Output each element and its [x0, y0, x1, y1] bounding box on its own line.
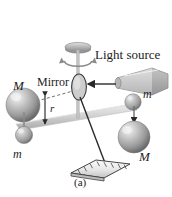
label-radius: r	[50, 103, 54, 114]
label-light-source: Light source	[95, 48, 160, 61]
sphere-small-left-highlight	[18, 129, 24, 133]
sphere-small-left-body	[15, 126, 32, 143]
label-mirror: Mirror	[37, 76, 69, 88]
sphere-large-left-body	[6, 88, 40, 122]
sphere-large-left-highlight	[11, 93, 22, 101]
sphere-small-right-body	[125, 94, 141, 110]
lamp-body-side	[152, 68, 168, 95]
light-source-lamp	[115, 68, 168, 95]
sphere-small-right-highlight	[127, 96, 132, 100]
label-mass-small-right: m	[143, 88, 152, 100]
mirror-disc	[72, 74, 87, 100]
figure-caption: (a)	[74, 177, 86, 188]
sphere-large-left	[6, 88, 40, 122]
cavendish-balance-figure: Light source Mirror M m m M r (a)	[0, 0, 172, 197]
label-mass-large-right: M	[139, 150, 150, 163]
label-mass-large-left: M	[13, 79, 24, 92]
rotation-arrow-head-left	[59, 58, 65, 64]
mirror-highlight	[73, 76, 80, 90]
reflected-beam	[80, 97, 105, 163]
lamp-lens	[115, 78, 121, 89]
label-mass-small-left: m	[13, 148, 22, 160]
sphere-large-right-highlight	[122, 126, 132, 134]
